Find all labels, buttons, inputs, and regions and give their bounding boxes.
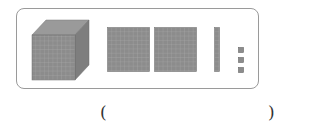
close-paren: )	[268, 104, 275, 121]
thousand-cube-icon	[31, 19, 91, 81]
unit-cube-icon	[238, 67, 244, 73]
hundred-flat-icon	[107, 27, 150, 72]
unit-cube-icon	[238, 47, 244, 53]
hundred-flat-icon	[154, 27, 197, 72]
answer-blank[interactable]	[112, 104, 264, 124]
open-paren: (	[100, 104, 107, 121]
unit-cube-icon	[238, 57, 244, 63]
ten-rod-icon	[214, 27, 220, 72]
